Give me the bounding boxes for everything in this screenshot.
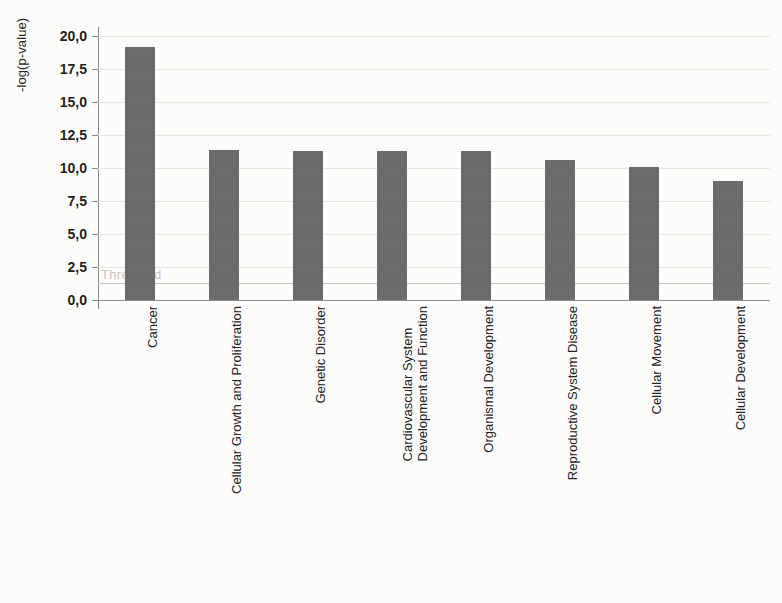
x-axis-category-label: Cancer [145,306,160,348]
gridline [98,69,770,70]
gridline [98,234,770,235]
bar-chart: -log(p-value) 20,017,515,012,510,07,55,0… [0,0,782,603]
y-axis-tick-label: 17,5 [60,61,87,77]
y-axis-tick [92,300,98,301]
x-axis-label-line: Development and Function [415,306,430,461]
y-axis-tick [92,168,98,169]
x-axis-label-line: Organismal Development [481,306,496,453]
gridline [98,168,770,169]
x-axis-label-line: Cancer [145,306,160,348]
bar[interactable] [461,151,491,300]
bar[interactable] [377,151,407,300]
x-axis-label-line: Cellular Movement [649,306,664,414]
x-axis-category-label: Cellular Growth and Proliferation [229,306,244,494]
bar[interactable] [545,160,575,300]
y-axis-tick [92,36,98,37]
x-axis-category-label: Cardiovascular SystemDevelopment and Fun… [400,306,430,461]
y-axis-tick-label: 15,0 [60,94,87,110]
y-axis-tick [92,69,98,70]
y-axis-tick [92,201,98,202]
gridline [98,36,770,37]
y-axis-label: -log(p-value) [14,0,29,92]
x-axis-category-label: Organismal Development [481,306,496,453]
gridline [98,102,770,103]
bar[interactable] [629,167,659,300]
gridline [98,201,770,202]
gridline [98,135,770,136]
y-axis-tick [92,102,98,103]
y-axis-tick-label: 12,5 [60,127,87,143]
x-axis-category-label: Reproductive System Disease [565,306,580,480]
y-axis-tick [92,267,98,268]
x-axis-label-line: Cellular Development [733,306,748,430]
bar[interactable] [713,181,743,300]
y-axis-tick [92,234,98,235]
y-axis-tick-label: 10,0 [60,160,87,176]
y-axis-tick-label: 20,0 [60,28,87,44]
x-axis-category-label: Cellular Development [733,306,748,430]
x-axis-line [98,300,770,301]
bar[interactable] [293,151,323,300]
y-axis-tick-label: 0,0 [68,292,87,308]
y-axis-tick [92,135,98,136]
y-axis-tick-label: 7,5 [68,193,87,209]
x-axis-label-line: Reproductive System Disease [565,306,580,480]
gridline [98,267,770,268]
threshold-line [98,283,770,284]
x-axis-label-line: Genetic Disorder [313,306,328,404]
x-axis-label-line: Cellular Growth and Proliferation [229,306,244,494]
bar[interactable] [209,150,239,300]
y-axis-tick-label: 2,5 [68,259,87,275]
y-axis-tick-label: 5,0 [68,226,87,242]
bar[interactable] [125,47,155,300]
x-axis-category-label: Genetic Disorder [313,306,328,404]
plot-area: 20,017,515,012,510,07,55,02,50,0 Thresho… [98,36,770,300]
x-axis-category-label: Cellular Movement [649,306,664,414]
x-axis-label-line: Cardiovascular System [400,306,415,461]
